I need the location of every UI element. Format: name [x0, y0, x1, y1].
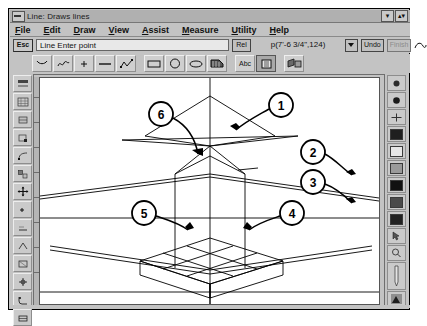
dot-icon — [391, 96, 402, 105]
callout-4-label: 4 — [289, 207, 296, 221]
right-attribute-palette — [385, 74, 407, 307]
callout-3-label: 3 — [310, 176, 317, 190]
color-darker-button[interactable] — [387, 211, 406, 227]
spline-tool-button[interactable] — [53, 55, 73, 72]
intersection-snap-button[interactable] — [13, 165, 32, 182]
escape-button[interactable]: Esc — [13, 39, 33, 52]
draw-toolbar: Abc — [10, 54, 410, 73]
drawing-canvas[interactable]: 1 2 3 4 5 6 — [39, 77, 380, 305]
system-menu-icon[interactable] — [12, 11, 25, 22]
erase-icon — [17, 313, 29, 323]
menu-item-measure[interactable]: Measure — [182, 25, 219, 35]
snap-tool-button[interactable] — [13, 111, 32, 128]
circle-icon — [169, 58, 181, 69]
select-icon — [17, 79, 29, 89]
render-tool-button[interactable] — [284, 55, 304, 72]
color-dark-gray-button[interactable] — [387, 194, 406, 210]
dot-icon — [391, 79, 402, 88]
spline-icon — [57, 59, 70, 69]
maximize-button[interactable]: ▴▾ — [395, 10, 408, 22]
line-weight-2-button[interactable] — [387, 92, 406, 108]
rectangle-icon — [147, 59, 161, 69]
point-tool-button[interactable] — [74, 55, 94, 72]
application-window: Line: Draws lines ▾ ▴▾ FFileile Edit Dra… — [8, 8, 410, 310]
fill-pattern-light-button[interactable] — [387, 143, 406, 159]
grid-icon — [391, 113, 402, 122]
hatch-tool-button[interactable] — [207, 55, 227, 72]
intersection-icon — [17, 169, 29, 179]
zoom-tool-button[interactable] — [387, 245, 406, 261]
midpoint-icon — [17, 151, 29, 161]
pen-tool-button[interactable] — [387, 262, 406, 290]
callout-1-label: 1 — [278, 99, 285, 113]
dimension-icon — [261, 59, 272, 69]
arc-tool-button[interactable] — [32, 55, 52, 72]
endpoint-icon — [17, 133, 29, 143]
relative-coord-button[interactable]: Rel — [232, 39, 251, 52]
grid-icon — [17, 97, 29, 107]
endpoint-snap-button[interactable] — [13, 129, 32, 146]
menu-item-view[interactable]: View — [109, 25, 129, 35]
undo-button[interactable]: Undo — [361, 39, 384, 52]
swatch — [390, 180, 403, 191]
swatch — [390, 214, 403, 225]
rectangle-tool-button[interactable] — [144, 55, 164, 72]
menu-item-edit[interactable]: Edit — [44, 25, 61, 35]
menu-item-utility[interactable]: Utility — [231, 25, 256, 35]
mountain-icon — [391, 294, 402, 304]
dimension-tool-button[interactable] — [256, 55, 276, 72]
midpoint-snap-button[interactable] — [13, 147, 32, 164]
menu-bar: FFileile Edit Draw View Assist Measure U… — [10, 23, 410, 37]
move-tool-button[interactable] — [13, 183, 32, 200]
polyline-tool-button[interactable] — [116, 55, 136, 72]
line-weight-1-button[interactable] — [387, 75, 406, 91]
command-bar: Esc Line Enter point Rel p(7'-6 3/4",124… — [10, 37, 410, 53]
cad-drawing[interactable]: 1 2 3 4 5 6 — [40, 78, 379, 304]
fill-pattern-solid-button[interactable] — [387, 126, 406, 142]
menu-item-file[interactable]: FFileile — [15, 25, 31, 35]
fill-pattern-medium-button[interactable] — [387, 160, 406, 176]
ellipse-tool-button[interactable] — [186, 55, 206, 72]
smart-cursor-button[interactable] — [387, 228, 406, 244]
color-black-button[interactable] — [387, 177, 406, 193]
magnifier-icon — [391, 248, 402, 258]
scale-tool-button[interactable] — [13, 255, 32, 272]
circle-tool-button[interactable] — [165, 55, 185, 72]
status-bar — [10, 305, 410, 308]
move-icon — [17, 186, 29, 197]
trim-icon — [17, 277, 29, 287]
swatch — [390, 197, 403, 208]
text-tool-button[interactable]: Abc — [235, 55, 255, 72]
render-icon — [287, 58, 302, 69]
freehand-curve-icon[interactable] — [414, 40, 427, 51]
trim-tool-button[interactable] — [13, 273, 32, 290]
command-prompt-input[interactable]: Line Enter point — [36, 39, 229, 51]
title-bar: Line: Draws lines ▾ ▴▾ — [10, 10, 410, 23]
grid-tool-button[interactable] — [13, 93, 32, 110]
line-icon — [98, 59, 112, 69]
copy-tool-button[interactable] — [13, 201, 32, 218]
callout-5-label: 5 — [141, 207, 148, 221]
rotate-icon — [17, 223, 29, 233]
line-tool-button[interactable] — [95, 55, 115, 72]
pen-icon — [392, 265, 401, 287]
layer-grid-button[interactable] — [387, 109, 406, 125]
coordinate-readout: p(7'-6 3/4",124) — [254, 39, 342, 51]
erase-tool-button[interactable] — [13, 309, 32, 326]
menu-item-assist[interactable]: Assist — [142, 25, 169, 35]
menu-item-help[interactable]: Help — [269, 25, 289, 35]
rotate-tool-button[interactable] — [13, 219, 32, 236]
menu-item-draw[interactable]: Draw — [74, 25, 96, 35]
arc-icon — [36, 59, 48, 69]
callout-2-label: 2 — [310, 146, 317, 160]
chevron-down-icon[interactable] — [345, 39, 358, 52]
minimize-button[interactable]: ▾ — [381, 10, 394, 22]
ellipse-icon — [189, 59, 203, 69]
finish-button[interactable]: Finish — [387, 39, 412, 52]
swatch — [390, 163, 403, 174]
mirror-tool-button[interactable] — [13, 237, 32, 254]
select-tool-button[interactable] — [13, 75, 32, 92]
copy-icon — [17, 205, 29, 215]
window-controls: ▾ ▴▾ — [381, 10, 410, 22]
drawing-area-frame: 1 2 3 4 5 6 — [33, 74, 385, 307]
